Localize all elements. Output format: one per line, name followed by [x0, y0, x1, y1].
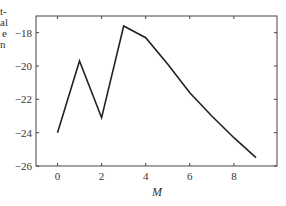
- y-tick-label: −24: [15, 127, 33, 139]
- plot-axes: 02468−18−20−22−24−26: [15, 16, 277, 182]
- x-tick-label: 0: [55, 170, 61, 182]
- y-tick-label: −22: [15, 93, 32, 105]
- x-tick-label: 8: [231, 170, 237, 182]
- y-tick-label: −26: [15, 160, 33, 172]
- x-tick-label: 2: [99, 170, 105, 182]
- x-axis-label: M: [151, 185, 163, 199]
- y-tick-label: −18: [15, 27, 33, 39]
- x-tick-label: 6: [187, 170, 193, 182]
- y-tick-label: −20: [15, 60, 33, 72]
- line-chart: 02468−18−20−22−24−26 M: [0, 0, 286, 206]
- data-line: [58, 26, 257, 158]
- x-tick-label: 4: [143, 170, 149, 182]
